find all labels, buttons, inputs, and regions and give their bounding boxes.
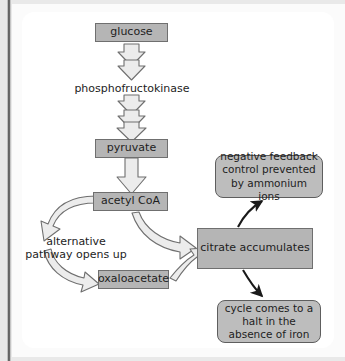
label-alternative-pathway: alternative pathway opens up [23, 235, 129, 261]
page-background: glucose phosphofructokinase pyruvate ace… [0, 0, 345, 361]
block-arrow-glucose-to-enzyme-2 [118, 60, 145, 80]
thin-arrow-citrate-to-negative-feedback [238, 201, 262, 227]
block-arrow-acetyl-coa-to-citrate [132, 212, 196, 259]
thin-arrow-citrate-to-halt [243, 270, 262, 296]
label-phosphofructokinase: phosphofructokinase [52, 82, 212, 95]
node-pyruvate: pyruvate [95, 139, 168, 158]
node-glucose: glucose [95, 23, 168, 42]
block-arrow-pyruvate-to-acetyl-coa [117, 158, 146, 194]
node-cycle-halt: cycle comes to a halt in the absence of … [217, 300, 321, 343]
node-negative-feedback: negative feedback control prevented by a… [215, 155, 323, 198]
node-citrate-accumulates: citrate accumulates [197, 228, 313, 269]
node-acetyl-coa: acetyl CoA [93, 192, 168, 211]
node-oxaloacetate: oxaloacetate [98, 270, 169, 289]
